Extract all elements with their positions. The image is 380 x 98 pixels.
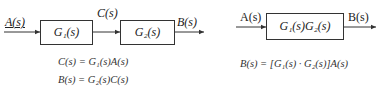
intermediate-label: C(s) [97, 6, 118, 21]
block-g1g2: G₁(s)G₂(s) [266, 13, 344, 40]
input-label-right: A(s) [240, 10, 261, 25]
output-label-left: B(s) [177, 15, 197, 30]
equation-combined: B(s) = [G₁(s) · G₂(s)]A(s) [240, 58, 348, 69]
block-g1g2-label: G₁(s)G₂(s) [280, 19, 331, 34]
input-label-left: A(s) [5, 15, 25, 30]
block-g1-label: G₁(s) [54, 25, 80, 40]
output-label-right: B(s) [348, 10, 369, 25]
block-g2-label: G₂(s) [135, 25, 161, 40]
equation-c: C(s) = G₁(s)A(s) [58, 56, 128, 67]
block-g1: G₁(s) [40, 20, 93, 45]
block-g2: G₂(s) [120, 20, 175, 45]
equation-b: B(s) = G₂(s)C(s) [58, 74, 128, 85]
